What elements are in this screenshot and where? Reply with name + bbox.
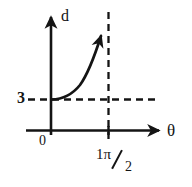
y-intercept-label: 3 xyxy=(17,90,25,106)
fraction-pi-over-2: 1π2 xyxy=(96,147,131,167)
fraction-numerator: 1π xyxy=(96,146,111,162)
origin-label: 0 xyxy=(39,134,46,148)
x-axis-label: θ xyxy=(167,122,175,139)
y-axis-label: d xyxy=(61,8,69,24)
x-tick-label-pi-over-2: 1π2 xyxy=(96,147,131,167)
fraction-slash-icon xyxy=(111,150,124,167)
data-curve xyxy=(52,36,102,100)
graph-figure: d θ 3 0 1π2 xyxy=(0,0,192,187)
fraction-denominator: 2 xyxy=(125,159,132,174)
